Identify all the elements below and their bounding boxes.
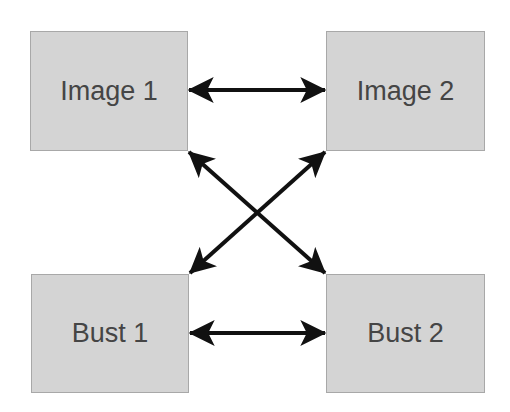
node-image-1-label: Image 1 bbox=[60, 76, 158, 107]
node-bust-1-label: Bust 1 bbox=[72, 318, 149, 349]
node-bust-1: Bust 1 bbox=[31, 274, 189, 393]
edge-image2-bust1-arrow bbox=[190, 152, 325, 273]
node-image-1: Image 1 bbox=[30, 31, 188, 151]
node-image-2-label: Image 2 bbox=[357, 76, 455, 107]
node-bust-2-label: Bust 2 bbox=[367, 318, 444, 349]
edge-image1-bust2-arrow bbox=[189, 152, 325, 273]
node-bust-2: Bust 2 bbox=[326, 274, 485, 393]
node-image-2: Image 2 bbox=[326, 31, 485, 151]
